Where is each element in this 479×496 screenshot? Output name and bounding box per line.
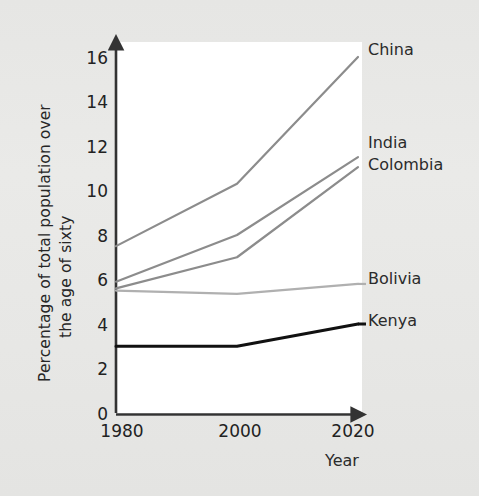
series-line-china	[116, 57, 358, 246]
axis-lines	[116, 48, 353, 415]
series-line-india	[116, 157, 358, 282]
series-line-bolivia	[116, 284, 358, 294]
chart-screenshot: Percentage of total population over the …	[0, 0, 479, 496]
chart-canvas	[0, 0, 479, 496]
data-series-group	[116, 57, 366, 346]
series-line-kenya	[116, 324, 358, 346]
